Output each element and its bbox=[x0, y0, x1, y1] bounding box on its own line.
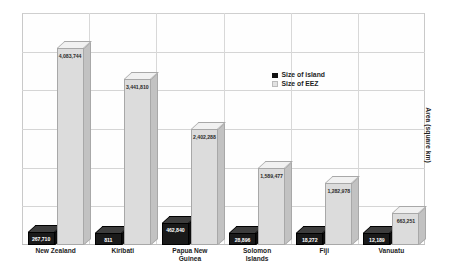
legend-swatch-island bbox=[272, 73, 278, 79]
bar-size-of-island: 267,710 bbox=[28, 232, 55, 245]
bar-group: 462,8402,402,288 bbox=[162, 13, 218, 245]
y-axis-title: Area (square km) bbox=[426, 107, 433, 163]
bar-size-of-island: 12,189 bbox=[363, 233, 390, 245]
bar-front-face bbox=[124, 79, 151, 245]
bar-front-face bbox=[191, 129, 218, 245]
bar-value-label: 267,710 bbox=[32, 237, 50, 242]
bar-size-of-eez: 663,251 bbox=[392, 213, 419, 245]
bar-side-face bbox=[285, 162, 292, 245]
bar-value-label: 1,589,477 bbox=[260, 174, 283, 179]
legend-item-size-of-island: Size of island bbox=[272, 72, 325, 79]
bar-size-of-eez: 3,441,810 bbox=[124, 79, 151, 245]
bar-size-of-island: 462,840 bbox=[162, 223, 189, 245]
bar-value-label: 663,251 bbox=[397, 219, 415, 224]
bar-size-of-island: 18,272 bbox=[296, 233, 323, 245]
bar-value-label: 18,272 bbox=[302, 238, 318, 243]
bar-front-face bbox=[258, 168, 285, 245]
bar-group: 12,189663,251 bbox=[363, 13, 419, 245]
bar-size-of-eez: 1,282,978 bbox=[325, 183, 352, 245]
category-label: New Zealand bbox=[22, 247, 89, 255]
bars-container: 267,7104,083,7448113,441,810462,8402,402… bbox=[22, 13, 425, 245]
bar-value-label: 12,189 bbox=[369, 238, 385, 243]
legend-label-island: Size of island bbox=[282, 72, 325, 79]
bar-size-of-eez: 1,589,477 bbox=[258, 168, 285, 245]
bar-size-of-eez: 4,083,744 bbox=[57, 48, 84, 245]
bar-value-label: 3,441,810 bbox=[126, 85, 149, 90]
bar-front-face bbox=[57, 48, 84, 245]
bar-size-of-island: 28,896 bbox=[229, 233, 256, 245]
bar-value-label: 4,083,744 bbox=[59, 54, 82, 59]
legend-item-size-of-eez: Size of EEZ bbox=[272, 81, 325, 88]
bar-group: 8113,441,810 bbox=[95, 13, 151, 245]
bar-side-face bbox=[352, 177, 359, 245]
category-label: Fiji bbox=[291, 247, 358, 255]
category-label: Kiribati bbox=[89, 247, 156, 255]
plot-area: 267,7104,083,7448113,441,810462,8402,402… bbox=[22, 13, 425, 245]
bar-size-of-island: 811 bbox=[95, 233, 122, 245]
bar-side-face bbox=[151, 72, 158, 245]
bar-value-label: 462,840 bbox=[166, 228, 184, 233]
bar-side-face bbox=[419, 207, 426, 245]
bar-value-label: 28,896 bbox=[235, 238, 251, 243]
bar-value-label: 2,402,288 bbox=[193, 135, 216, 140]
bar-value-label: 811 bbox=[104, 238, 112, 243]
legend-swatch-eez bbox=[272, 81, 278, 87]
bar-chart: 267,7104,083,7448113,441,810462,8402,402… bbox=[0, 0, 458, 269]
bar-group: 267,7104,083,744 bbox=[28, 13, 84, 245]
bar-side-face bbox=[218, 123, 225, 245]
bar-value-label: 1,282,978 bbox=[327, 189, 350, 194]
chart-legend: Size of island Size of EEZ bbox=[272, 72, 325, 90]
legend-label-eez: Size of EEZ bbox=[282, 81, 319, 88]
category-label: Papua New Guinea bbox=[156, 247, 223, 264]
category-label: Vanuatu bbox=[358, 247, 425, 255]
bar-group: 18,2721,282,978 bbox=[296, 13, 352, 245]
bar-side-face bbox=[84, 41, 91, 245]
bar-group: 28,8961,589,477 bbox=[229, 13, 285, 245]
bar-size-of-eez: 2,402,288 bbox=[191, 129, 218, 245]
category-label: Solomon Islands bbox=[224, 247, 291, 264]
